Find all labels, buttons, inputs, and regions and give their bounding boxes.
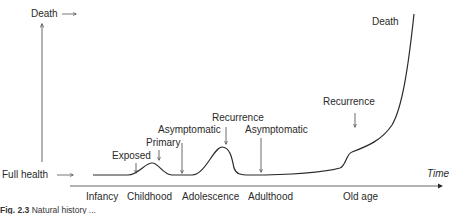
- natural-history-diagram: [0, 0, 456, 214]
- annotation-death: Death: [372, 16, 399, 28]
- annotation-primary: Primary: [146, 137, 180, 149]
- stage-adulthood: Adulthood: [248, 191, 293, 203]
- figure-caption: Fig. 2.3 Natural history ...: [0, 205, 96, 214]
- stage-adolescence: Adolescence: [182, 191, 239, 203]
- annotation-recurrence-1: Recurrence: [212, 112, 264, 124]
- annotation-asymptomatic-1: Asymptomatic: [158, 124, 221, 136]
- stage-infancy: Infancy: [86, 191, 118, 203]
- stage-old-age: Old age: [343, 191, 378, 203]
- caption-text: Natural history ...: [32, 205, 96, 214]
- x-axis-label: Time: [427, 168, 449, 180]
- stage-childhood: Childhood: [127, 191, 172, 203]
- y-axis-top-label: Death: [31, 8, 58, 20]
- annotation-exposed: Exposed: [112, 150, 151, 162]
- annotation-recurrence-2: Recurrence: [323, 96, 375, 108]
- annotation-asymptomatic-2: Asymptomatic: [245, 124, 308, 136]
- y-axis-bottom-label: Full health: [2, 169, 48, 181]
- figure-number: Fig. 2.3: [0, 205, 29, 214]
